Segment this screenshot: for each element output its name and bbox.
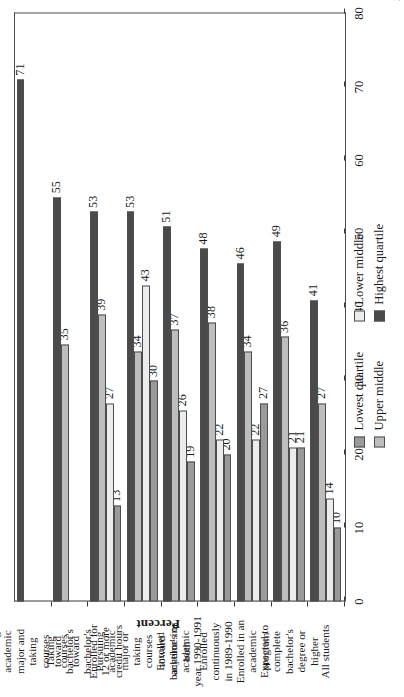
value-axis-tick-mark	[344, 229, 345, 234]
category-label-line: year 1990-1991	[191, 605, 203, 697]
bar	[326, 498, 334, 601]
bar	[310, 300, 318, 601]
chart-legend: Lowest quartileUpper middle Lower middle…	[352, 224, 387, 447]
bar	[61, 344, 69, 601]
bar	[150, 381, 158, 602]
category-label-line: higher	[308, 605, 320, 697]
bar	[237, 263, 245, 601]
bar	[244, 351, 252, 601]
bar	[224, 454, 232, 601]
category-label-line: taking	[26, 605, 38, 697]
bar-value-label: 53	[86, 195, 101, 207]
scanned-page: Percent 01020304050607080 All studentsEx…	[0, 0, 404, 697]
bar-value-label: 41	[306, 283, 321, 295]
bar	[171, 329, 179, 601]
bar	[114, 505, 122, 601]
bar	[98, 314, 106, 601]
value-axis-tick-mark	[344, 376, 345, 381]
category-label-line: both	[180, 605, 192, 697]
category-label-line: courses	[39, 605, 51, 697]
bar	[179, 410, 187, 601]
value-axis-tick-mark	[344, 8, 345, 13]
category-label: Pursuingacademicmajor andtakingcoursesto…	[0, 605, 76, 697]
value-axis-tick-mark	[344, 82, 345, 87]
bar	[318, 403, 326, 601]
bar	[163, 226, 171, 601]
category-label-line: 12 or more	[99, 605, 111, 697]
category-label-line: credit hours	[112, 605, 124, 697]
category-label: All students	[319, 605, 331, 697]
category-axis-tick-mark	[344, 601, 345, 606]
legend-swatch-icon	[354, 436, 365, 447]
legend-swatch-icon	[354, 310, 365, 321]
legend-item: Upper middle	[372, 351, 387, 447]
bar	[90, 211, 98, 601]
category-label: Enrolled in anacademicprogram	[234, 605, 271, 697]
value-axis-tick-label: 70	[352, 73, 367, 101]
value-axis-tick-label: 60	[352, 146, 367, 174]
bar-value-label: 49	[269, 225, 284, 237]
value-axis-tick-label: 0	[352, 587, 367, 615]
bar	[142, 285, 150, 601]
legend-swatch-icon	[374, 310, 385, 321]
category-label-line: bachelor's or	[167, 605, 179, 697]
value-axis-tick-label: 80	[352, 0, 367, 27]
bar	[289, 447, 297, 601]
category-label-line: major and	[14, 605, 26, 697]
value-axis-tick-mark	[344, 596, 345, 601]
bar-value-label: 71	[13, 63, 28, 75]
bar	[134, 351, 142, 601]
bar-value-label: 48	[196, 232, 211, 244]
bar	[208, 322, 216, 601]
legend-label: Lowest quartile	[352, 351, 367, 430]
category-label-line: academic	[1, 605, 13, 697]
category-label-line: degree or	[295, 605, 307, 697]
legend-label: Upper middle	[372, 360, 387, 430]
value-axis-tick-mark	[344, 302, 345, 307]
bar-value-label: 55	[49, 181, 64, 193]
bar-value-label: 46	[233, 247, 248, 259]
bar-value-label: 27	[256, 386, 271, 398]
category-label-line: in 1989-1990	[222, 605, 234, 697]
bar	[252, 439, 260, 601]
category-label-line: courses	[142, 605, 154, 697]
rotated-figure-wrapper: Percent 01020304050607080 All studentsEx…	[0, 0, 404, 697]
value-axis-tick-label: 10	[352, 514, 367, 542]
bar	[273, 241, 281, 601]
category-label-line: taking	[130, 605, 142, 697]
legend-item: Highest quartile	[372, 224, 387, 322]
category-label-line: toward	[51, 605, 63, 697]
category-label-line: complete	[270, 605, 282, 697]
bar-value-label: 51	[159, 210, 174, 222]
bar	[334, 528, 342, 602]
legend-label: Lower middle	[352, 233, 367, 304]
bar-value-label: 43	[138, 269, 153, 281]
bar	[200, 248, 208, 601]
legend-item: Lowest quartile	[352, 351, 367, 447]
legend-item: Lower middle	[352, 224, 367, 322]
legend-column-2: Lower middleHighest quartile	[352, 224, 387, 322]
bar	[297, 447, 305, 601]
bar-chart-figure: Percent 01020304050607080 All studentsEx…	[0, 0, 404, 697]
bar	[127, 211, 135, 601]
category-label-line: Enrolled in an	[234, 605, 246, 697]
legend-label: Highest quartile	[372, 224, 387, 305]
category-label-line: program	[259, 605, 271, 697]
value-axis-tick-mark	[344, 155, 345, 160]
category-label-line: bachelor's	[283, 605, 295, 697]
category-label-line: academic	[246, 605, 258, 697]
bar-value-label: 53	[123, 195, 138, 207]
bar	[53, 197, 61, 601]
legend-swatch-icon	[374, 436, 385, 447]
legend-column-1: Lowest quartileUpper middle	[352, 351, 387, 447]
category-label-line: toward	[155, 605, 167, 697]
value-axis-tick-mark	[344, 449, 345, 454]
category-label-line: bachelor's	[63, 605, 75, 697]
bar	[281, 336, 289, 601]
category-label-line: bachelor's	[81, 605, 93, 697]
category-label-line: continuously	[209, 605, 221, 697]
bar	[17, 79, 25, 601]
bar	[106, 403, 114, 601]
category-label-line: All students	[319, 605, 331, 697]
bar	[216, 439, 224, 601]
